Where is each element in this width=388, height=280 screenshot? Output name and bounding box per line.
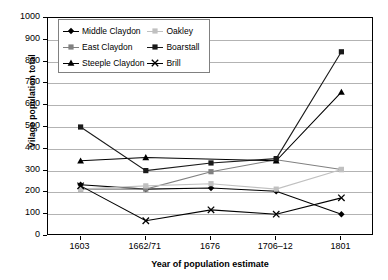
legend-item-steeple-claydon[interactable]: Steeple Claydon: [63, 58, 147, 68]
square-marker: [143, 183, 148, 188]
y-tick-label: 300: [6, 165, 40, 174]
legend-row: East Claydon Boarstall: [63, 39, 205, 55]
y-tick-label: 400: [6, 143, 40, 152]
x-tick-label: 1662/71: [115, 241, 175, 251]
square-marker-icon: [147, 42, 163, 52]
y-tick-label: 600: [6, 99, 40, 108]
cross-marker: [152, 60, 158, 66]
chart-legend: Middle Claydon Oakley East Claydon Boars…: [58, 19, 210, 73]
legend-item-brill[interactable]: Brill: [147, 58, 205, 68]
x-tick-label: 1603: [50, 241, 110, 251]
legend-item-boarstall[interactable]: Boarstall: [147, 42, 205, 52]
x-tick-mark: [145, 236, 146, 240]
square-marker: [274, 187, 279, 192]
x-tick-label: 1676: [180, 241, 240, 251]
square-marker: [68, 44, 73, 49]
y-tick-label: 200: [6, 186, 40, 195]
cross-marker-icon: [147, 58, 163, 68]
legend-label: East Claydon: [82, 43, 133, 52]
diamond-marker-icon: [63, 26, 79, 36]
legend-item-middle-claydon[interactable]: Middle Claydon: [63, 26, 147, 36]
series-steeple-claydon: [77, 89, 345, 164]
legend-row: Steeple Claydon Brill: [63, 55, 205, 71]
triangle-marker-icon: [63, 58, 79, 68]
x-axis-title: Year of population estimate: [47, 259, 373, 269]
square-marker: [274, 156, 279, 161]
triangle-marker: [68, 60, 75, 66]
y-tick-label: 700: [6, 77, 40, 86]
square-marker: [339, 167, 344, 172]
legend-item-east-claydon[interactable]: East Claydon: [63, 42, 147, 52]
square-marker: [339, 49, 344, 54]
x-tick-label: 1706–12: [245, 241, 305, 251]
x-tick-mark: [340, 236, 341, 240]
square-marker: [208, 169, 213, 174]
legend-label: Oakley: [166, 27, 192, 36]
line-chart: Vilage population total 1000900800700600…: [0, 0, 388, 280]
y-tick-label: 100: [6, 208, 40, 217]
legend-label: Brill: [166, 59, 180, 68]
y-tick-label: 500: [6, 121, 40, 130]
square-marker: [78, 124, 83, 129]
y-tick-label: 800: [6, 56, 40, 65]
legend-label: Boarstall: [166, 43, 199, 52]
x-tick-mark: [275, 236, 276, 240]
y-tick-label: 900: [6, 34, 40, 43]
diamond-marker: [68, 28, 74, 34]
legend-label: Steeple Claydon: [82, 59, 144, 68]
x-tick-mark: [80, 236, 81, 240]
square-marker: [208, 181, 213, 186]
square-marker: [208, 160, 213, 165]
square-marker-icon: [147, 26, 163, 36]
y-tick-label: 0: [6, 230, 40, 239]
x-tick-label: 1801: [310, 241, 370, 251]
x-tick-mark: [210, 236, 211, 240]
square-marker: [153, 28, 158, 33]
diamond-marker: [338, 211, 344, 217]
square-marker-icon: [63, 42, 79, 52]
legend-item-oakley[interactable]: Oakley: [147, 26, 205, 36]
legend-label: Middle Claydon: [82, 27, 141, 36]
square-marker: [143, 168, 148, 173]
series-line: [81, 92, 342, 161]
triangle-marker: [338, 89, 345, 95]
y-tick-label: 1000: [6, 12, 40, 21]
square-marker: [153, 44, 158, 49]
y-tick-mark: [43, 235, 47, 236]
legend-row: Middle Claydon Oakley: [63, 23, 205, 39]
